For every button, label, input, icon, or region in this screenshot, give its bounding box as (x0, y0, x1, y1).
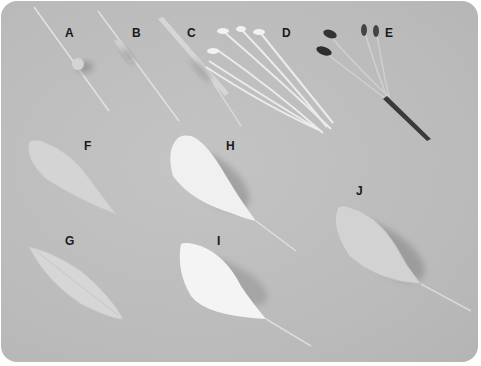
label-c: C (187, 26, 196, 40)
label-i: I (217, 234, 220, 248)
sugar-flower-parts-illustration (1, 1, 481, 366)
item-f-petal (28, 140, 116, 214)
label-g: G (65, 234, 74, 248)
item-e-dark-stamens (315, 24, 431, 141)
label-f: F (84, 139, 91, 153)
label-d: D (282, 26, 291, 40)
item-d-white-stamens (206, 26, 333, 133)
label-b: B (132, 26, 141, 40)
item-h-petal (170, 135, 256, 221)
photo-panel: A B C D E F H G I J (1, 1, 478, 362)
label-h: H (226, 139, 235, 153)
label-e: E (385, 26, 393, 40)
label-a: A (65, 26, 74, 40)
label-j: J (356, 184, 363, 198)
item-a-wire-ball (34, 7, 109, 111)
